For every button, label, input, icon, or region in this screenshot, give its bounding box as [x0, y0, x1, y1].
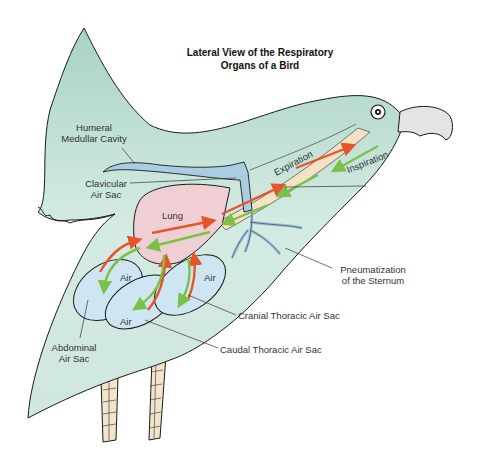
label-humeral-medullar-cavity: Humeral Medullar Cavity — [54, 122, 134, 144]
beak — [398, 106, 453, 140]
title-line-2: Organs of a Bird — [170, 59, 350, 72]
label-line: Clavicular — [78, 178, 134, 189]
title-line-1: Lateral View of the Respiratory — [170, 46, 350, 59]
label-clavicular-air-sac: Clavicular Air Sac — [78, 178, 134, 200]
label-pneumatization-sternum: Pneumatization of the Sternum — [334, 264, 412, 286]
label-caudal-thoracic-air-sac: Caudal Thoracic Air Sac — [220, 344, 322, 355]
label-air-caudal: Air — [120, 316, 132, 327]
label-line: Abdominal — [44, 342, 104, 353]
label-line: of the Sternum — [334, 275, 412, 286]
label-line: Pneumatization — [334, 264, 412, 275]
label-air-cranial: Air — [204, 272, 216, 283]
label-line: Medullar Cavity — [54, 133, 134, 144]
label-line: Air Sac — [78, 189, 134, 200]
label-cranial-thoracic-air-sac: Cranial Thoracic Air Sac — [238, 310, 340, 321]
label-line: Air Sac — [44, 353, 104, 364]
label-abdominal-air-sac: Abdominal Air Sac — [44, 342, 104, 364]
label-lung: Lung — [162, 210, 183, 221]
diagram-title: Lateral View of the Respiratory Organs o… — [170, 46, 350, 72]
label-air-abdominal: Air — [120, 272, 132, 283]
label-line: Humeral — [54, 122, 134, 133]
